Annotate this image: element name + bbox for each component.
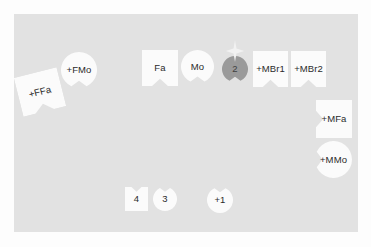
graph-node-fmo[interactable]: +FMo (61, 52, 97, 88)
graph-node-mbr2[interactable]: +MBr2 (291, 51, 326, 87)
graph-node-mmo[interactable]: +MMo (315, 141, 352, 178)
node-shape-square-notch-bottom (142, 50, 178, 86)
node-shape-circle-notch-left (315, 141, 352, 178)
node-shape-circle-notch-top (207, 187, 233, 213)
scene-canvas: +FFa+FMoFaMo2+MBr1+MBr2+MFa+MMo43+1 (0, 0, 371, 247)
node-shape-square-notch-bottom (253, 51, 288, 87)
graph-node-n3[interactable]: 3 (153, 187, 177, 211)
graph-node-mo[interactable]: Mo (181, 50, 214, 83)
node-shape-circle-notch-bottom (222, 56, 248, 82)
graph-node-mbr1[interactable]: +MBr1 (253, 51, 288, 87)
node-shape-circle-notch-top (153, 187, 177, 211)
graph-node-np1[interactable]: +1 (207, 187, 233, 213)
node-shape-circle-notch-bottom (61, 52, 97, 88)
graph-node-mfa[interactable]: +MFa (316, 100, 352, 138)
node-shape-square-notch-left (316, 100, 352, 138)
graph-node-n4[interactable]: 4 (125, 187, 148, 211)
node-shape-square-notch-top (125, 187, 148, 211)
node-shape-square-notch-bottom (291, 51, 326, 87)
workspace-panel[interactable] (14, 14, 358, 232)
graph-node-fa[interactable]: Fa (142, 50, 178, 86)
graph-node-n2[interactable]: 2 (222, 56, 248, 82)
node-shape-circle-notch-bottom (181, 50, 214, 83)
